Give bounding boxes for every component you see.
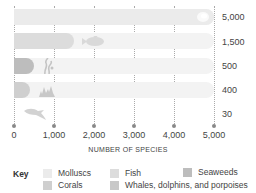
legend-swatch-corals	[43, 181, 52, 190]
bar-seaweeds	[14, 58, 34, 74]
legend-swatch-fish	[110, 169, 119, 178]
tick-dot-1000	[52, 124, 56, 128]
legend-item-seaweeds: Seaweeds	[183, 167, 238, 177]
bar-fish	[14, 33, 74, 49]
legend-label-molluscs: Molluscs	[58, 168, 91, 178]
bar-corals	[14, 82, 30, 98]
legend-swatch-seaweeds	[183, 168, 192, 177]
legend-swatch-whales	[110, 181, 119, 190]
value-label-seaweeds: 500	[222, 61, 237, 71]
legend-label-whales: Whales, dolphins, and porpoises	[125, 180, 248, 190]
bar-track-fish	[14, 33, 214, 49]
legend-item-molluscs: Molluscs	[43, 168, 91, 178]
legend-item-corals: Corals	[43, 180, 83, 190]
legend-item-fish: Fish	[110, 168, 141, 178]
legend-swatch-molluscs	[43, 169, 52, 178]
tick-dot-0	[12, 124, 16, 128]
tick-dot-3000	[132, 124, 136, 128]
tick-dot-4000	[172, 124, 176, 128]
dolphin-icon	[24, 108, 46, 120]
legend-label-fish: Fish	[125, 168, 141, 178]
value-label-fish: 1,500	[222, 37, 245, 47]
tick-label-1000: 1,000	[43, 130, 66, 140]
x-axis-label: NUMBER OF SPECIES	[0, 146, 256, 153]
value-label-molluscs: 5,000	[222, 12, 245, 22]
legend-label-corals: Corals	[58, 180, 83, 190]
bar-molluscs	[14, 9, 214, 25]
legend-label-seaweeds: Seaweeds	[198, 167, 238, 177]
bar-track-molluscs	[14, 9, 214, 25]
value-label-whales: 30	[222, 109, 232, 119]
legend-title: Key	[13, 169, 29, 179]
tick-dot-5000	[212, 124, 216, 128]
shell-icon	[196, 11, 210, 23]
tick-label-4000: 4,000	[163, 130, 186, 140]
tick-label-0: 0	[11, 130, 16, 140]
fish-icon	[82, 36, 106, 47]
bar-chart: 5,000 1,500 500 400 30 0 1,000 2,000 3,0…	[0, 0, 256, 150]
tick-label-2000: 2,000	[83, 130, 106, 140]
coral-icon	[38, 83, 56, 97]
tick-label-5000: 5,000	[203, 130, 226, 140]
tick-label-3000: 3,000	[123, 130, 146, 140]
tick-dot-2000	[92, 124, 96, 128]
legend: Key Molluscs Fish Seaweeds Corals Whales…	[0, 165, 256, 193]
value-label-corals: 400	[222, 85, 237, 95]
gridline-5000	[214, 6, 215, 124]
legend-item-whales: Whales, dolphins, and porpoises	[110, 180, 248, 190]
seaweed-icon	[42, 58, 54, 74]
